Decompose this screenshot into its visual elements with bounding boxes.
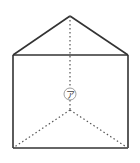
label-a: ア	[64, 88, 76, 100]
top-right-roof-edge	[70, 16, 128, 55]
label-text: ア	[66, 90, 75, 100]
triangular-prism-diagram: ア	[0, 0, 140, 163]
hidden-left-base-edge	[13, 110, 70, 148]
top-left-roof-edge	[13, 16, 70, 55]
hidden-edges	[13, 16, 128, 148]
hidden-right-base-edge	[70, 110, 128, 148]
visible-edges	[13, 16, 128, 148]
